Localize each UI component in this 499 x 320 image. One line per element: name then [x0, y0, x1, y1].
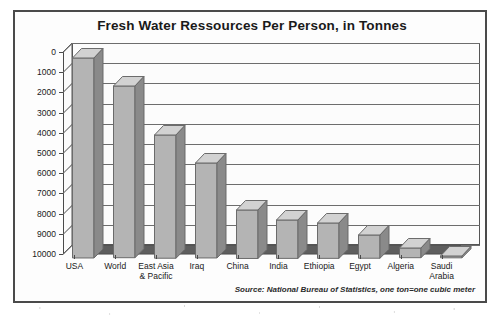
y-axis-tick-label: 1000 — [16, 68, 56, 77]
y-axis-tick-label: 7000 — [16, 189, 56, 198]
x-axis-tick-mark — [278, 255, 279, 259]
x-axis-tick-mark — [156, 255, 157, 259]
y-axis-tick-mark — [59, 254, 63, 255]
y-axis-tick-label: 5000 — [16, 149, 56, 158]
bar-3d-shape — [195, 153, 228, 259]
bar-3d-shape — [72, 48, 105, 259]
bar-3d-shape — [154, 125, 187, 259]
y-axis-tick-label: 6000 — [16, 169, 56, 178]
y-axis-tick-mark — [59, 173, 63, 174]
y-axis-tick-mark — [59, 153, 63, 154]
bar-column[interactable] — [72, 50, 94, 259]
gridline — [72, 63, 480, 64]
x-axis-category-label: Saudi Arabia — [412, 261, 472, 281]
chart-title: Fresh Water Ressources Per Person, in To… — [15, 18, 489, 33]
x-axis-tick-mark — [319, 255, 320, 259]
y-axis-tick-mark — [59, 92, 63, 93]
chart-frame: Fresh Water Ressources Per Person, in To… — [13, 10, 487, 303]
y-axis-tick-mark — [59, 72, 63, 73]
bar-column[interactable] — [317, 215, 339, 259]
x-axis-tick-mark — [401, 255, 402, 259]
bar-column[interactable] — [440, 248, 462, 259]
bar-3d-shape — [113, 76, 146, 259]
y-axis-tick-mark — [59, 214, 63, 215]
y-axis-tick-label: 2000 — [16, 88, 56, 97]
y-axis-tick-label: 10000 — [16, 250, 56, 259]
gridline — [72, 43, 480, 44]
bar-3d-shape — [317, 213, 350, 259]
bar-3d-shape — [236, 200, 269, 259]
x-axis-tick-mark — [115, 255, 116, 259]
bar-3d-shape — [440, 246, 473, 259]
y-axis-tick-mark — [59, 193, 63, 194]
y-axis-tick-label: 8000 — [16, 210, 56, 219]
source-note: Source: National Bureau of Statistics, o… — [235, 285, 475, 294]
bar-column[interactable] — [276, 212, 298, 259]
x-axis-tick-mark — [238, 255, 239, 259]
x-axis-tick-mark — [442, 255, 443, 259]
x-axis-tick-mark — [360, 255, 361, 259]
scan-speckle-noise — [0, 300, 499, 320]
bar-column[interactable] — [236, 202, 258, 259]
y-axis-tick-label: 4000 — [16, 129, 56, 138]
y-axis-tick-mark — [59, 133, 63, 134]
plot-area — [63, 43, 480, 260]
bar-column[interactable] — [195, 155, 217, 259]
bar-column[interactable] — [154, 127, 176, 259]
bar-3d-shape — [358, 225, 391, 259]
bar-column[interactable] — [358, 227, 380, 259]
y-axis-tick-label: 3000 — [16, 109, 56, 118]
bar-column[interactable] — [113, 78, 135, 259]
y-axis-tick-mark — [59, 113, 63, 114]
y-axis-tick-label: 9000 — [16, 230, 56, 239]
bar-3d-shape — [399, 238, 432, 259]
y-axis-tick-label: 0 — [16, 48, 56, 57]
x-axis-tick-mark — [74, 255, 75, 259]
scanned-page: Fresh Water Ressources Per Person, in To… — [0, 0, 499, 320]
bar-column[interactable] — [399, 240, 421, 259]
y-axis-tick-mark — [59, 52, 63, 53]
x-axis-tick-mark — [197, 255, 198, 259]
bar-3d-shape — [276, 210, 309, 259]
y-axis-tick-mark — [59, 234, 63, 235]
